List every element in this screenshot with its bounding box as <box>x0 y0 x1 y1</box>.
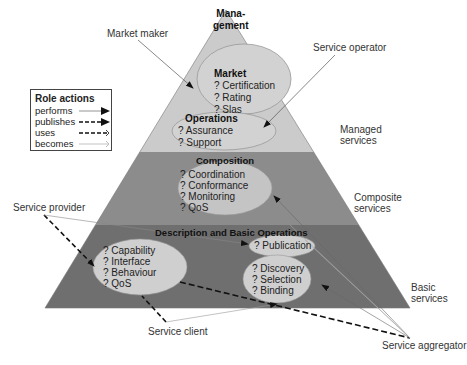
legend-row-publishes: publishes <box>35 116 107 127</box>
publication-ellipse-content: ? Publication <box>254 240 311 252</box>
service-provider-label: Service provider <box>13 202 85 213</box>
market-maker-label: Market maker <box>107 28 168 39</box>
service-operator-label: Service operator <box>313 42 386 53</box>
description-title: Description and Basic Operations <box>155 227 308 238</box>
composite-services-label: Compositeservices <box>354 192 402 214</box>
legend-row-performs: performs <box>35 105 107 116</box>
management-title: Mana- gement <box>213 8 249 32</box>
basic-services-label: Basicservices <box>411 282 448 304</box>
service-aggregator-label: Service aggregator <box>382 340 467 351</box>
discovery-ellipse-content: ? Discovery ? Selection ? Binding <box>252 263 304 296</box>
legend-row-uses: uses <box>35 127 107 138</box>
role-actions-legend: Role actions performs publishes uses bec… <box>30 89 112 151</box>
performs-arrow-icon <box>79 107 111 115</box>
service-client-label: Service client <box>148 326 207 337</box>
market-ellipse-content: Market ? Certification ? Rating ? Slas <box>214 68 275 116</box>
description-ellipse-content: ? Capability ? Interface ? Behaviour ? Q… <box>103 245 156 289</box>
publishes-arrow-icon <box>79 118 111 126</box>
composition-ellipse-content: ? Coordination ? Conformance ? Monitorin… <box>180 169 248 213</box>
uses-arrow-icon <box>79 129 111 137</box>
legend-title: Role actions <box>35 93 107 105</box>
composition-title: Composition <box>196 155 254 166</box>
market-maker-arrow <box>138 40 193 88</box>
legend-row-becomes: becomes <box>35 138 107 149</box>
becomes-arrow-icon <box>79 140 111 148</box>
managed-services-label: Managedservices <box>340 124 382 146</box>
operations-ellipse-content: Operations ? Assurance ? Support <box>178 113 238 149</box>
